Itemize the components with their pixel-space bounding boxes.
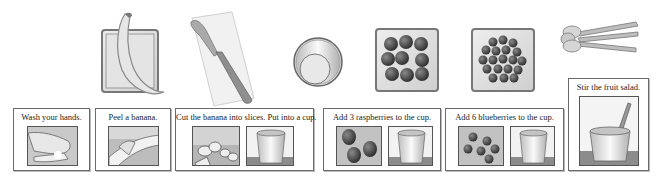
step-label: Add 3 raspberries to the cup. bbox=[324, 112, 440, 122]
step-card-add-raspberries: Add 3 raspberries to the cup. bbox=[323, 108, 441, 171]
cup-top-view-icon bbox=[290, 32, 350, 92]
cup-icon bbox=[246, 126, 294, 166]
supply-spoons bbox=[560, 18, 642, 58]
cup-icon bbox=[388, 126, 433, 166]
banana-slices-icon bbox=[192, 126, 240, 166]
supply-knife bbox=[188, 8, 268, 108]
supply-banana bbox=[92, 8, 174, 98]
supply-blueberries bbox=[471, 28, 537, 94]
step-label: Wash your hands. bbox=[14, 112, 89, 122]
step-card-stir-salad: Stir the fruit salad. bbox=[568, 78, 649, 171]
banana-on-plate-icon bbox=[92, 8, 174, 98]
knife-on-board-icon bbox=[188, 8, 268, 108]
cup-icon bbox=[510, 126, 555, 166]
step-label: Cut the banana into slices. Put into a c… bbox=[176, 112, 313, 122]
three-raspberries-icon bbox=[336, 126, 382, 166]
peeling-banana-icon bbox=[108, 126, 159, 166]
supply-raspberries bbox=[375, 28, 441, 94]
step-card-peel-banana: Peel a banana. bbox=[95, 108, 171, 171]
washing-hands-icon bbox=[27, 126, 78, 166]
blueberries-plate-icon bbox=[471, 28, 537, 94]
step-card-wash-hands: Wash your hands. bbox=[13, 108, 90, 171]
cup-with-spoon-icon bbox=[579, 96, 639, 166]
six-blueberries-icon bbox=[458, 126, 504, 166]
step-label: Peel a banana. bbox=[96, 112, 170, 122]
supply-cup bbox=[290, 32, 350, 92]
step-card-cut-banana: Cut the banana into slices. Put into a c… bbox=[175, 108, 314, 171]
spoons-icon bbox=[560, 18, 642, 58]
raspberries-plate-icon bbox=[375, 28, 441, 94]
step-label: Stir the fruit salad. bbox=[569, 82, 648, 92]
step-card-add-blueberries: Add 6 blueberries to the cup. bbox=[445, 108, 564, 171]
step-label: Add 6 blueberries to the cup. bbox=[446, 112, 563, 122]
